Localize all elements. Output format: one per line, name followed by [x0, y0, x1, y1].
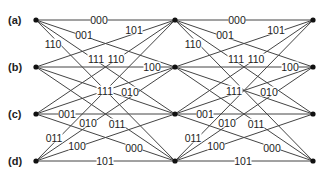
edge-label: 011: [185, 132, 202, 144]
state-node-b: [33, 64, 38, 69]
state-label-a: (a): [8, 14, 22, 26]
edge-label: 000: [228, 14, 246, 26]
edge-label: 011: [109, 118, 126, 130]
edge-label: 101: [234, 155, 252, 167]
edge-label: 110: [248, 53, 265, 65]
edge-label: 111: [226, 85, 242, 97]
state-node-d: [172, 158, 177, 163]
edge-label: 000: [125, 142, 143, 154]
edge-label: 001: [196, 108, 214, 120]
state-node-c: [33, 111, 38, 116]
edge-label: 011: [248, 118, 265, 130]
state-label-c: (c): [8, 108, 22, 120]
state-node-a: [33, 17, 38, 22]
edge-label: 000: [90, 14, 108, 26]
edge-label: 100: [143, 61, 161, 73]
state-node-d: [33, 158, 38, 163]
edge-label: 010: [79, 117, 97, 129]
edge-label: 001: [58, 108, 76, 120]
trellis-diagram: 0000011111101011000100001101110010110110…: [0, 0, 326, 176]
edge-label: 011: [46, 132, 63, 144]
state-node-b: [172, 64, 177, 69]
edge-label: 010: [218, 117, 236, 129]
state-node-a: [172, 17, 177, 22]
edge-label: 101: [125, 24, 143, 36]
edge-label: 110: [45, 38, 62, 50]
edge-label: 000: [263, 142, 281, 154]
edge-label: 111: [228, 53, 244, 65]
state-node-a: [310, 17, 315, 22]
state-labels: (a)(b)(c)(d): [8, 14, 22, 167]
state-node-d: [310, 158, 315, 163]
edge-label: 100: [207, 140, 225, 152]
edge-label: 111: [97, 85, 113, 97]
edge-label: 100: [281, 61, 299, 73]
edge-label: 010: [121, 86, 139, 98]
edge-label: 110: [185, 38, 202, 50]
edge-label: 101: [267, 24, 285, 36]
edge-label: 001: [216, 29, 234, 41]
state-label-b: (b): [8, 61, 22, 73]
state-node-c: [172, 111, 177, 116]
edge-label: 010: [260, 86, 278, 98]
state-node-c: [310, 111, 315, 116]
trellis-svg: 0000011111101011000100001101110010110110…: [0, 0, 326, 176]
state-label-d: (d): [8, 155, 22, 167]
state-node-b: [310, 64, 315, 69]
edge-label: 001: [75, 29, 93, 41]
edge-label: 100: [68, 140, 86, 152]
edge-label: 110: [108, 53, 125, 65]
edge-labels: 0000011111101011000100001101110010110110…: [45, 14, 299, 167]
edge-label: 111: [88, 53, 104, 65]
edge-label: 101: [96, 155, 114, 167]
